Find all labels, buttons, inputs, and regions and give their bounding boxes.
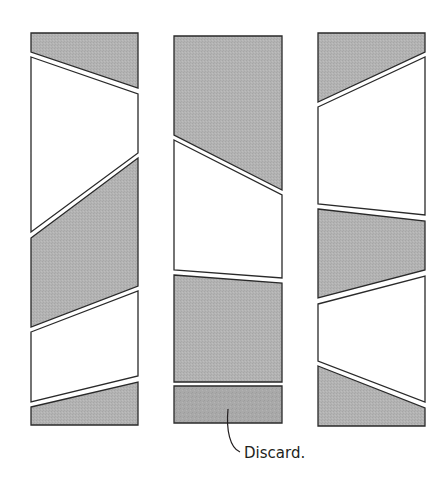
strip-3 (318, 33, 425, 426)
strip-cutting-diagram: Discard. (0, 0, 445, 480)
strip-1 (31, 33, 138, 425)
strip-2 (174, 36, 282, 423)
discard-label: Discard. (244, 444, 305, 462)
shaded-piece (174, 275, 282, 382)
